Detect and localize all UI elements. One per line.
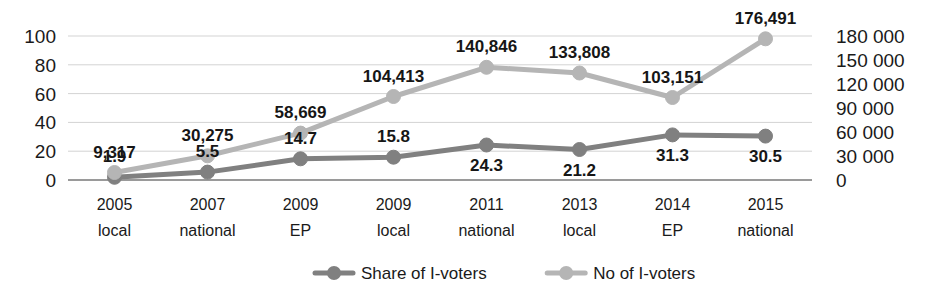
data-point-marker[interactable] bbox=[480, 138, 494, 152]
category-axis-label: 2009 bbox=[376, 196, 412, 213]
category-axis-label: 2007 bbox=[190, 196, 226, 213]
data-point-label: 30,275 bbox=[182, 126, 234, 145]
category-axis-label: 2005 bbox=[97, 196, 133, 213]
chart-legend[interactable]: Share of I-votersNo of I-voters bbox=[315, 264, 695, 283]
data-point-marker[interactable] bbox=[201, 165, 215, 179]
data-point-label: 15.8 bbox=[377, 127, 410, 146]
left-axis-tick-label: 80 bbox=[35, 55, 56, 76]
right-axis-tick-label: 90 000 bbox=[836, 98, 894, 119]
data-labels: 1.95.514.715.824.321.231.330.59,31730,27… bbox=[93, 9, 796, 180]
legend-swatch-marker bbox=[327, 266, 341, 280]
data-point-marker[interactable] bbox=[480, 60, 494, 74]
data-point-marker[interactable] bbox=[387, 90, 401, 104]
chart-container: 020406080100 030 00060 00090 000120 0001… bbox=[0, 0, 934, 296]
data-point-marker[interactable] bbox=[294, 152, 308, 166]
category-axis-label: 2009 bbox=[283, 196, 319, 213]
right-axis-tick-label: 150 000 bbox=[836, 50, 905, 71]
legend-item-label[interactable]: No of I-voters bbox=[593, 264, 695, 283]
line-chart: 020406080100 030 00060 00090 000120 0001… bbox=[0, 0, 934, 296]
right-axis-tick-label: 180 000 bbox=[836, 26, 905, 47]
data-point-marker[interactable] bbox=[666, 91, 680, 105]
data-point-label: 140,846 bbox=[456, 37, 517, 56]
right-axis-tick-label: 30 000 bbox=[836, 146, 894, 167]
data-point-marker[interactable] bbox=[759, 32, 773, 46]
left-axis-tick-label: 40 bbox=[35, 112, 56, 133]
legend-item-label[interactable]: Share of I-voters bbox=[361, 264, 487, 283]
right-axis-tick-label: 120 000 bbox=[836, 74, 905, 95]
left-axis-tick-label: 100 bbox=[24, 26, 56, 47]
right-axis-ticks: 030 00060 00090 000120 000150 000180 000 bbox=[836, 26, 905, 191]
category-axis-label: 2015 bbox=[748, 196, 784, 213]
left-axis-tick-label: 20 bbox=[35, 141, 56, 162]
category-axis-label: 2011 bbox=[469, 196, 504, 213]
category-axis-label: local bbox=[377, 222, 410, 239]
category-axis-label: 2014 bbox=[655, 196, 691, 213]
category-axis-label: EP bbox=[290, 222, 311, 239]
left-axis-ticks: 020406080100 bbox=[24, 26, 56, 191]
category-axis-label: local bbox=[98, 222, 131, 239]
right-axis-tick-label: 0 bbox=[836, 170, 847, 191]
data-point-marker[interactable] bbox=[759, 129, 773, 143]
data-point-marker[interactable] bbox=[387, 150, 401, 164]
data-point-label: 5.5 bbox=[196, 142, 220, 161]
category-axis-label: 2013 bbox=[562, 196, 598, 213]
left-axis-tick-label: 60 bbox=[35, 84, 56, 105]
category-axis-label: national bbox=[458, 222, 514, 239]
category-labels: 2005local2007national2009EP2009local2011… bbox=[97, 196, 794, 239]
data-point-label: 133,808 bbox=[549, 43, 610, 62]
legend-swatch-marker bbox=[559, 266, 573, 280]
category-axis-label: national bbox=[179, 222, 235, 239]
data-point-marker[interactable] bbox=[108, 166, 122, 180]
data-point-marker[interactable] bbox=[666, 128, 680, 142]
data-point-label: 30.5 bbox=[749, 147, 782, 166]
data-point-label: 14.7 bbox=[284, 129, 317, 148]
data-point-label: 21.2 bbox=[563, 161, 596, 180]
data-point-label: 104,413 bbox=[363, 67, 424, 86]
category-axis-label: national bbox=[737, 222, 793, 239]
data-point-label: 24.3 bbox=[470, 156, 503, 175]
left-axis-tick-label: 0 bbox=[45, 170, 56, 191]
data-point-marker[interactable] bbox=[573, 66, 587, 80]
category-axis-label: EP bbox=[662, 222, 683, 239]
data-point-label: 176,491 bbox=[735, 9, 796, 28]
data-point-label: 31.3 bbox=[656, 146, 689, 165]
data-point-label: 58,669 bbox=[275, 103, 327, 122]
data-point-label: 103,151 bbox=[642, 68, 703, 87]
data-point-label: 9,317 bbox=[93, 143, 136, 162]
right-axis-tick-label: 60 000 bbox=[836, 122, 894, 143]
data-point-marker[interactable] bbox=[573, 143, 587, 157]
category-axis-label: local bbox=[563, 222, 596, 239]
